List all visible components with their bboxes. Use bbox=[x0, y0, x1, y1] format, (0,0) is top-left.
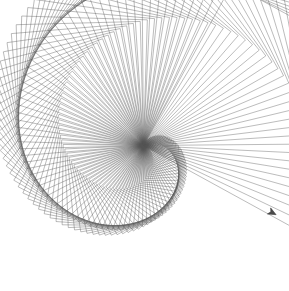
spiral-render-surface bbox=[0, 0, 289, 291]
turtle-drawing-canvas bbox=[0, 0, 289, 291]
